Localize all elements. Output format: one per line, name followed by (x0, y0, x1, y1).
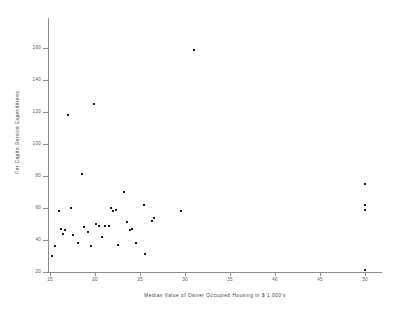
data-point (51, 255, 53, 257)
data-point (98, 225, 100, 227)
data-point (364, 269, 366, 271)
data-point (67, 114, 69, 116)
data-point (126, 221, 128, 223)
y-tick-mark (43, 272, 48, 273)
x-tick-mark (320, 272, 321, 276)
y-tick-label: 40 (11, 238, 41, 243)
x-tick-label: 35 (218, 278, 242, 283)
plot-data-area (48, 18, 382, 272)
data-point (72, 234, 74, 236)
data-point (112, 210, 114, 212)
data-point (180, 210, 182, 212)
x-tick-mark (275, 272, 276, 276)
x-tick-mark (365, 272, 366, 276)
data-point (110, 207, 112, 209)
data-point (101, 236, 103, 238)
data-point (117, 244, 119, 246)
scatter-plot-figure: 20406080100120140160 1520253035404550 Me… (0, 0, 401, 313)
data-point (143, 204, 145, 206)
data-point (83, 226, 85, 228)
x-tick-label: 30 (173, 278, 197, 283)
data-point (364, 209, 366, 211)
x-tick-label: 40 (263, 278, 287, 283)
x-axis-line (48, 272, 382, 273)
x-tick-label: 15 (38, 278, 62, 283)
data-point (64, 229, 66, 231)
data-point (115, 209, 117, 211)
data-point (70, 207, 72, 209)
data-point (54, 245, 56, 247)
data-point (151, 220, 153, 222)
x-tick-mark (185, 272, 186, 276)
data-point (62, 233, 64, 235)
data-point (87, 231, 89, 233)
data-point (90, 245, 92, 247)
data-point (364, 183, 366, 185)
x-tick-label: 20 (83, 278, 107, 283)
x-tick-mark (230, 272, 231, 276)
data-point (123, 191, 125, 193)
y-axis-label: Per Capita Service Expenditures (16, 47, 21, 217)
x-axis-label: Median Value of Owner Occupied Housing i… (48, 294, 382, 299)
data-point (153, 217, 155, 219)
data-point (81, 173, 83, 175)
data-point (60, 228, 62, 230)
data-point (93, 103, 95, 105)
data-point (95, 223, 97, 225)
data-point (108, 225, 110, 227)
data-point (104, 225, 106, 227)
data-point (193, 49, 195, 51)
data-point (144, 253, 146, 255)
data-point (131, 228, 133, 230)
data-point (58, 210, 60, 212)
x-tick-label: 25 (128, 278, 152, 283)
x-tick-mark (140, 272, 141, 276)
data-point (135, 242, 137, 244)
x-tick-label: 50 (353, 278, 377, 283)
data-point (77, 242, 79, 244)
x-tick-label: 45 (308, 278, 332, 283)
y-tick-label: 20 (11, 270, 41, 275)
data-point (364, 204, 366, 206)
x-tick-mark (95, 272, 96, 276)
x-tick-mark (50, 272, 51, 276)
